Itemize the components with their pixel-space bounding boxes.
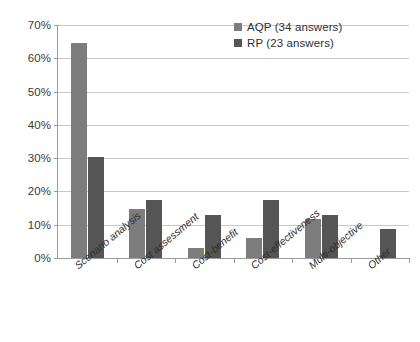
y-axis-tick-mark (54, 158, 58, 159)
y-axis-tick-label: 20% (28, 185, 51, 197)
gridline (58, 92, 409, 93)
legend-item-aqp: AQP (34 answers) (234, 19, 342, 35)
y-axis-tick-mark (54, 58, 58, 59)
x-axis-tick-mark (409, 258, 410, 263)
x-axis-tick-mark (175, 258, 176, 263)
y-axis-tick-label: 70% (28, 19, 51, 31)
legend-label-aqp: AQP (34 answers) (247, 21, 342, 33)
y-axis-tick-mark (54, 25, 58, 26)
legend-label-rp: RP (23 answers) (247, 37, 334, 49)
y-axis-tick-label: 60% (28, 52, 51, 64)
legend: AQP (34 answers) RP (23 answers) (234, 19, 342, 51)
y-axis-tick-mark (54, 125, 58, 126)
y-axis-tick-label: 30% (28, 152, 51, 164)
legend-item-rp: RP (23 answers) (234, 35, 342, 51)
gridline (58, 191, 409, 192)
legend-swatch-icon-aqp (234, 23, 242, 31)
x-axis-tick-mark (117, 258, 118, 263)
y-axis-tick-label: 40% (28, 119, 51, 131)
y-axis-tick-mark (54, 258, 58, 259)
x-axis-tick-mark (234, 258, 235, 263)
gridline (58, 158, 409, 159)
y-axis-tick-mark (54, 225, 58, 226)
y-axis-tick-label: 0% (34, 252, 51, 264)
bar-aqp-0 (71, 43, 87, 258)
x-axis-tick-mark (292, 258, 293, 263)
gridline (58, 58, 409, 59)
y-axis-tick-label: 50% (28, 86, 51, 98)
x-axis-tick-mark (351, 258, 352, 263)
y-axis-tick-mark (54, 191, 58, 192)
bar-chart: 0%10%20%30%40%50%60%70% Scenario analysi… (0, 0, 420, 342)
gridline (58, 125, 409, 126)
legend-swatch-icon-rp (234, 39, 242, 47)
y-axis-tick-label: 10% (28, 219, 51, 231)
y-axis-tick-mark (54, 92, 58, 93)
